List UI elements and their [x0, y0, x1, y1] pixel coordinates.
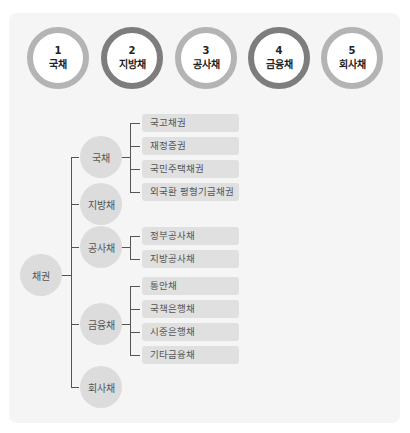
- node-label: 회사채: [88, 380, 115, 395]
- step-circle-3: 3 공사채: [175, 27, 237, 89]
- step-number: 4: [276, 44, 283, 58]
- connector-line: [130, 146, 140, 147]
- connector-line: [130, 123, 140, 124]
- step-circle-2: 2 지방채: [101, 27, 163, 89]
- leaf-item: 기타금융채: [142, 346, 239, 364]
- leaf-item: 지방공사채: [142, 250, 239, 268]
- node-label: 지방채: [88, 197, 115, 212]
- connector-line: [130, 355, 140, 356]
- step-number: 2: [129, 44, 136, 58]
- step-label: 금융채: [266, 58, 293, 72]
- node-label: 채권: [32, 268, 50, 283]
- leaf-item: 재정증권: [142, 137, 239, 155]
- step-number: 3: [203, 44, 210, 58]
- step-label: 공사채: [193, 58, 220, 72]
- branch-node-gukchae: 국채: [80, 136, 122, 178]
- leaf-item: 시중은행채: [142, 323, 239, 341]
- connector-line: [130, 259, 140, 260]
- step-circle-5: 5 회사채: [321, 27, 383, 89]
- connector-line: [71, 157, 72, 387]
- connector-line: [130, 236, 140, 237]
- step-circle-1: 1 국채: [27, 27, 89, 89]
- connector-line: [130, 332, 140, 333]
- connector-line: [130, 123, 131, 192]
- step-circle-4: 4 금융채: [248, 27, 310, 89]
- root-node: 채권: [20, 254, 62, 296]
- leaf-item: 국고채권: [142, 114, 239, 132]
- connector-line: [71, 387, 79, 388]
- branch-node-jibangchae: 지방채: [80, 183, 122, 225]
- connector-line: [130, 192, 140, 193]
- connector-line: [71, 157, 79, 158]
- step-number: 5: [349, 44, 356, 58]
- leaf-item: 통안채: [142, 277, 239, 295]
- leaf-item: 국민주택채권: [142, 160, 239, 178]
- node-label: 금융채: [88, 317, 115, 332]
- connector-line: [130, 236, 131, 259]
- connector-line: [71, 247, 79, 248]
- branch-node-gongsachae: 공사채: [80, 226, 122, 268]
- leaf-item: 정부공사채: [142, 227, 239, 245]
- leaf-item: 외국환 평형기금채권: [142, 183, 239, 201]
- step-label: 지방채: [119, 58, 146, 72]
- branch-node-hoesachae: 회사채: [80, 366, 122, 408]
- branch-node-geumyungchae: 금융채: [80, 303, 122, 345]
- connector-line: [130, 286, 140, 287]
- connector-line: [130, 309, 140, 310]
- node-label: 공사채: [88, 240, 115, 255]
- connector-line: [130, 169, 140, 170]
- step-label: 국채: [49, 58, 67, 72]
- connector-line: [130, 286, 131, 355]
- connector-line: [71, 204, 79, 205]
- node-label: 국채: [92, 150, 110, 165]
- step-number: 1: [55, 44, 62, 58]
- step-label: 회사채: [339, 58, 366, 72]
- connector-line: [71, 324, 79, 325]
- leaf-item: 국책은행채: [142, 300, 239, 318]
